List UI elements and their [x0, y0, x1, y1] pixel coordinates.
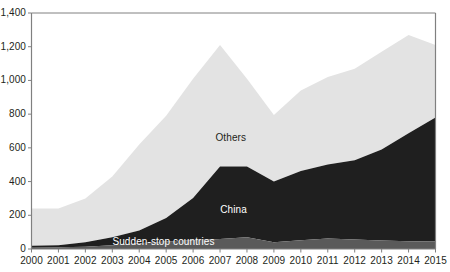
area-chart: 02004006008001,0001,2001,400 20002001200…	[0, 0, 450, 272]
y-axis-tick-label: 1,000	[0, 75, 26, 85]
y-axis-tick-label: 1,200	[0, 42, 26, 52]
series-label-sudden-stop-countries: Sudden-stop countries	[112, 236, 214, 247]
x-axis-tick-label: 2015	[420, 256, 450, 266]
y-axis-tick-label: 0	[0, 244, 26, 254]
y-axis-tick-label: 1,400	[0, 8, 26, 18]
y-axis-tick-label: 800	[0, 109, 26, 119]
y-axis-tick-label: 600	[0, 143, 26, 153]
y-axis-tick-label: 400	[0, 177, 26, 187]
y-axis-tick-label: 200	[0, 210, 26, 220]
series-label-others: Others	[215, 132, 246, 143]
series-label-china: China	[220, 204, 247, 215]
